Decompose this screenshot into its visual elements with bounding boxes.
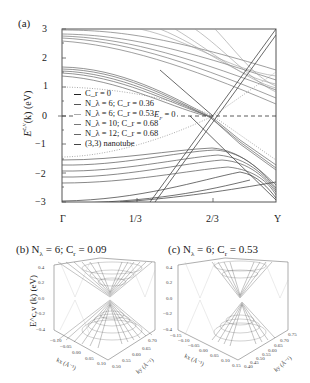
c-ztick-1: 0.2: [166, 280, 172, 285]
title-c-prefix: (c) N: [168, 243, 191, 255]
c-ytick-7: 0.75: [288, 332, 297, 337]
b-xtick-1: −0.05: [60, 344, 72, 349]
b-ztick-2: 0.0: [38, 296, 44, 301]
b-ztick-3: −0.2: [36, 311, 45, 316]
b-xtick-2: 0.00: [72, 350, 81, 355]
b-xtick-3: 0.05: [85, 356, 94, 361]
c-xtick-2: −0.05: [188, 343, 200, 348]
title-c-rest: = 6; C: [194, 243, 224, 255]
c-ztick-3: −0.2: [163, 311, 172, 316]
c-xtick-5: 0.10: [221, 358, 230, 363]
c-xtick-3: 0.00: [199, 348, 208, 353]
b-xtick-4: 0.10: [97, 361, 106, 366]
c-xtick-4: 0.05: [210, 353, 219, 358]
b-ztick-0: 0.4: [38, 265, 44, 270]
panel-b-3d-surface: [0, 0, 310, 383]
c-ytick-4: 0.60: [268, 348, 277, 353]
b-ytick-0: 0.50: [112, 364, 121, 369]
b-ytick-2: 0.60: [132, 352, 141, 357]
c-ytick-5: 0.65: [274, 343, 283, 348]
panel-b-zlabel: E^c,v (k) (eV): [28, 266, 38, 336]
c-xtick-6: 0.15: [232, 363, 241, 368]
panel-c-title: (c) Nλ = 6; Cr = 0.53: [168, 243, 258, 258]
b-ztick-1: 0.2: [38, 280, 44, 285]
b-ytick-4: 0.70: [148, 338, 157, 343]
c-ztick-4: −0.4: [163, 327, 172, 332]
b-ztick-4: −0.4: [36, 327, 45, 332]
b-ytick-1: 0.55: [122, 358, 131, 363]
c-ztick-0: 0.4: [166, 265, 172, 270]
b-xtick-0: −0.10: [50, 338, 62, 343]
c-ytick-6: 0.70: [280, 338, 289, 343]
title-c-end: = 0.53: [227, 243, 258, 255]
b-ytick-3: 0.65: [142, 346, 151, 351]
c-ztick-2: 0.0: [166, 296, 172, 301]
